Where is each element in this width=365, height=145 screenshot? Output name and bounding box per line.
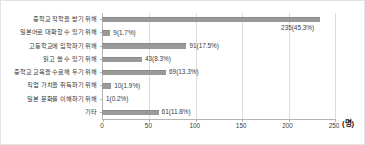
category-label: 중학교 작학을 받기 위해 xyxy=(5,16,97,22)
bar-row: 69(13.3%) xyxy=(102,66,364,79)
x-axis-tick-label: 200 xyxy=(282,123,293,129)
x-axis-tick-label: 0 xyxy=(100,123,104,129)
x-axis-tick-label: 50 xyxy=(145,123,152,129)
category-label: 일본어로 대화할 수 있기 위해 xyxy=(5,29,97,35)
category-label: 고등학교에 입학하기 위해 xyxy=(5,43,97,49)
bar[interactable] xyxy=(102,70,166,76)
category-label: 중학교 교육을 수료해 두기 위해 xyxy=(5,69,97,75)
category-label: 읽고 쓸 수 있기 위해 xyxy=(5,56,97,62)
x-axis-tick-label: 100 xyxy=(189,123,200,129)
category-label: 직업 가치을 취득하기 위해 xyxy=(5,82,97,88)
bar[interactable] xyxy=(102,30,110,36)
bar-row: 61(11.8%) xyxy=(102,106,364,119)
category-label: 기타 xyxy=(5,109,97,115)
x-axis-tick-label: 250 xyxy=(329,123,340,129)
bar-row: 9(1.7%) xyxy=(102,26,364,39)
bar[interactable] xyxy=(102,110,159,116)
x-axis-tick-label: 150 xyxy=(236,123,247,129)
bar-value-label: 1(0.2%) xyxy=(106,96,128,102)
bar-row: 91(17.5%) xyxy=(102,40,364,53)
bar-value-label: 61(11.8%) xyxy=(162,109,191,115)
bar[interactable] xyxy=(102,83,111,89)
bar-chart: 050100150200250 (명) 중학교 작학을 받기 위해235(45.… xyxy=(0,0,365,145)
bar[interactable] xyxy=(102,96,103,102)
bar-row: 235(45.3%) xyxy=(102,13,364,26)
bar[interactable] xyxy=(102,57,142,63)
bar-row: 1(0.2%) xyxy=(102,93,364,106)
bar-value-label: 91(17.5%) xyxy=(189,43,219,49)
bar-row: 43(8.3%) xyxy=(102,53,364,66)
bar-value-label: 9(1.7%) xyxy=(113,30,135,36)
category-label: 일본 문화를 이해하기 위해 xyxy=(5,96,97,102)
bar-value-label: 69(13.3%) xyxy=(169,69,199,75)
bar[interactable] xyxy=(102,17,320,23)
bar[interactable] xyxy=(102,43,186,49)
bar-row: 10(1.9%) xyxy=(102,79,364,92)
x-axis-unit-label: (명) xyxy=(342,120,354,128)
bar-value-label: 43(8.3%) xyxy=(145,56,171,62)
bar-value-label: 10(1.9%) xyxy=(114,83,140,89)
